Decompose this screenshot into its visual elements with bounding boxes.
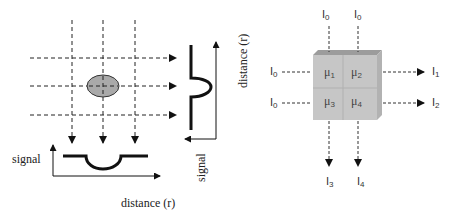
output-bottom-4-label: I4: [357, 176, 365, 189]
input-left-1-label: I0: [270, 66, 278, 79]
output-right-2-label: I2: [432, 97, 440, 110]
bottom-axis-y-label: signal: [12, 153, 41, 165]
cell-mu-4-label: μ4: [351, 95, 362, 109]
cell-mu-2-label: μ2: [351, 66, 362, 80]
cube-side-face: [377, 50, 382, 120]
projection-diagram-graphics: [0, 0, 453, 216]
input-top-2-label: I0: [354, 9, 362, 22]
cell-mu-3-label: μ3: [324, 95, 335, 109]
cell-mu-1-label: μ1: [324, 66, 335, 80]
right-axis-x-label: distance (r): [237, 34, 249, 88]
output-right-1-label: I1: [432, 66, 440, 79]
input-left-2-label: I0: [270, 97, 278, 110]
right-axis-y-label: signal: [195, 153, 207, 182]
output-bottom-3-label: I3: [326, 176, 334, 189]
voxel-cube: [313, 50, 382, 120]
right-signal-profile: [191, 45, 211, 130]
bottom-signal-profile: [63, 156, 148, 169]
cube-top-face: [313, 50, 382, 55]
attenuation-diagram: signal distance (r) signal distance (r) …: [0, 0, 453, 216]
bottom-signal-axes: [53, 145, 160, 176]
bottom-axis-x-label: distance (r): [121, 197, 175, 209]
input-top-1-label: I0: [322, 9, 330, 22]
